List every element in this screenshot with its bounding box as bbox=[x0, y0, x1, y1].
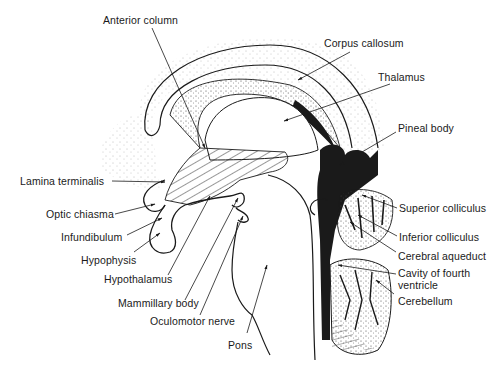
label-anterior-column: Anterior column bbox=[103, 14, 178, 26]
label-cerebellum: Cerebellum bbox=[398, 295, 453, 307]
label-oculomotor-nerve: Oculomotor nerve bbox=[150, 315, 235, 327]
leader-line-infundibulum bbox=[127, 218, 162, 235]
leader-line-hypophysis bbox=[134, 233, 160, 252]
label-mammillary-body: Mammillary body bbox=[118, 297, 199, 309]
leader-line-pons bbox=[247, 265, 267, 333]
label-cavity-of-fourth-ventricle: Cavity of fourth ventricle bbox=[398, 267, 478, 291]
label-optic-chiasma: Optic chiasma bbox=[46, 208, 114, 220]
label-pineal-body: Pineal body bbox=[398, 122, 454, 134]
leader-line-mammillary-body bbox=[185, 198, 238, 300]
label-hypothalamus: Hypothalamus bbox=[104, 273, 172, 285]
label-infundibulum: Infundibulum bbox=[61, 231, 122, 243]
label-inferior-colliculus: Inferior colliculus bbox=[399, 231, 479, 243]
label-corpus-callosum: Corpus callosum bbox=[324, 37, 404, 49]
leader-line-oculomotor-nerve bbox=[200, 216, 243, 315]
leader-line-optic-chiasma bbox=[115, 204, 155, 214]
label-cerebral-aqueduct: Cerebral aqueduct bbox=[398, 250, 486, 262]
cerebellum-shape bbox=[330, 259, 391, 354]
label-hypophysis: Hypophysis bbox=[81, 254, 136, 266]
label-lamina-terminalis: Lamina terminalis bbox=[20, 175, 104, 187]
label-thalamus: Thalamus bbox=[378, 71, 425, 83]
label-superior-colliculus: Superior colliculus bbox=[399, 202, 486, 214]
label-pons: Pons bbox=[228, 339, 252, 351]
brain-diagram: Anterior columnCorpus callosumThalamusPi… bbox=[0, 0, 502, 371]
brainstem-shape bbox=[232, 175, 315, 360]
